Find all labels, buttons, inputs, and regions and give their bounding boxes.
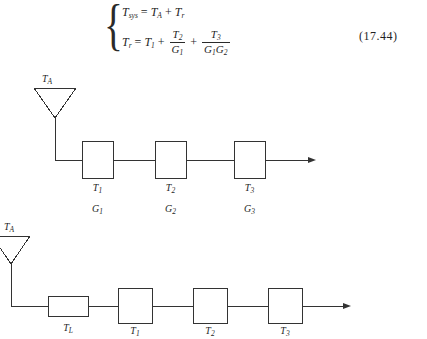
block-t3-bottom — [268, 288, 302, 323]
block-label-t3-bottom: T3 — [268, 325, 302, 336]
antenna-feed-line-bottom — [11, 264, 48, 306]
antenna-triangle-bottom — [0, 236, 30, 264]
block-diagram-bottom-svg — [0, 0, 427, 339]
block-label-t2-bottom: T2 — [193, 325, 227, 336]
textbook-page: { Tsys = TA + Tr Tr = T1 + T2 G1 + — [0, 0, 427, 339]
output-arrowhead-bottom — [343, 303, 351, 309]
block-label-tl-bottom: TL — [48, 322, 88, 333]
antenna-label-bottom: TA — [4, 221, 14, 232]
block-label-t1-bottom: T1 — [118, 325, 152, 336]
block-t1-bottom — [118, 288, 152, 323]
block-tl-bottom — [48, 296, 88, 316]
block-t2-bottom — [193, 288, 227, 323]
